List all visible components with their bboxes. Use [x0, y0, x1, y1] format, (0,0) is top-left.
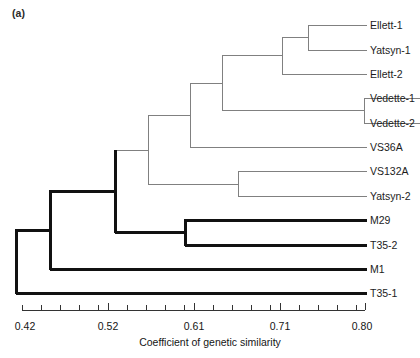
axis-tick-label-0-61: 0.61: [184, 320, 204, 332]
leaf-label-ellett-2: Ellett-2: [370, 69, 403, 80]
leaf-label-vs132a: VS132A: [370, 166, 409, 177]
black-branch-group: [16, 150, 367, 294]
leaf-label-m1: M1: [370, 264, 385, 275]
axis-tick-label-0-71: 0.71: [270, 320, 290, 332]
leaf-label-m29: M29: [370, 215, 390, 226]
leaf-label-yatsyn-2: Yatsyn-2: [370, 191, 411, 202]
leaf-label-ellett-1: Ellett-1: [370, 20, 403, 31]
axis-tick-label-0-42: 0.42: [15, 320, 35, 332]
dendrogram-plot: [0, 0, 420, 358]
x-axis-title: Coefficient of genetic similarity: [0, 336, 420, 348]
dendrogram-figure: (a): [0, 0, 420, 358]
leaf-label-vs36a: VS36A: [370, 142, 403, 153]
leaf-label-t35-2: T35-2: [370, 240, 397, 251]
axis-tick-label-0-80: 0.80: [352, 320, 372, 332]
leaf-label-yatsyn-1: Yatsyn-1: [370, 45, 411, 56]
leaf-label-vedette-1: Vedette-1: [370, 93, 415, 104]
axis-tick-label-0-52: 0.52: [98, 320, 118, 332]
x-axis: [22, 303, 365, 310]
leaf-label-t35-1: T35-1: [370, 288, 397, 299]
leaf-label-vedette-2: Vedette-2: [370, 118, 415, 129]
